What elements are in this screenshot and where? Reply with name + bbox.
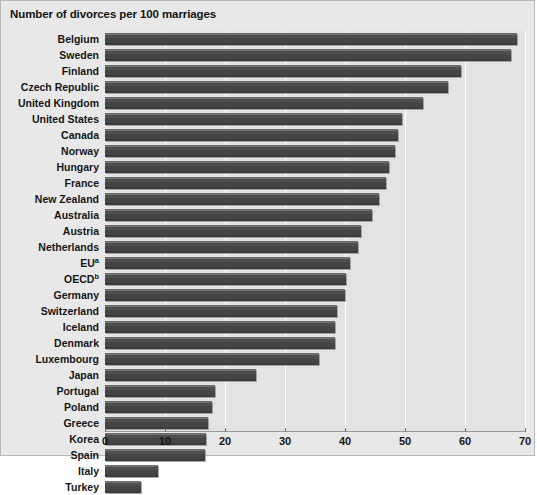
tick-label-10: 10: [159, 435, 171, 447]
category-label-czech-republic: Czech Republic: [1, 79, 99, 95]
category-label-greece: Greece: [1, 415, 99, 431]
category-label-germany: Germany: [1, 287, 99, 303]
bar-row: Canada: [1, 127, 536, 143]
bar-eu: [105, 257, 350, 269]
bar-row: Belgium: [1, 31, 536, 47]
bar-japan: [105, 369, 256, 381]
bar-norway: [105, 145, 395, 157]
category-label-eu: EUa: [1, 255, 99, 271]
bar-row: OECDb: [1, 271, 536, 287]
tick-label-60: 60: [459, 435, 471, 447]
bar-row: Finland: [1, 63, 536, 79]
bar-container: [105, 385, 215, 397]
tick-label-50: 50: [399, 435, 411, 447]
bar-container: [105, 209, 372, 221]
bar-container: [105, 225, 361, 237]
bar-row: Portugal: [1, 383, 536, 399]
category-label-united-kingdom: United Kingdom: [1, 95, 99, 111]
bar-container: [105, 81, 448, 93]
bar-container: [105, 145, 395, 157]
bar-greece: [105, 417, 208, 429]
bar-row: Hungary: [1, 159, 536, 175]
bar-container: [105, 33, 517, 45]
tick-mark-60: [465, 428, 466, 432]
bar-container: [105, 465, 158, 477]
bar-netherlands: [105, 241, 358, 253]
tick-label-0: 0: [102, 435, 108, 447]
category-label-finland: Finland: [1, 63, 99, 79]
bar-france: [105, 177, 386, 189]
bar-row: New Zealand: [1, 191, 536, 207]
bar-czech-republic: [105, 81, 448, 93]
category-label-austria: Austria: [1, 223, 99, 239]
bar-row: France: [1, 175, 536, 191]
bar-container: [105, 193, 379, 205]
tick-mark-20: [225, 428, 226, 432]
tick-label-20: 20: [219, 435, 231, 447]
bar-sweden: [105, 49, 511, 61]
tick-mark-40: [345, 428, 346, 432]
category-label-united-states: United States: [1, 111, 99, 127]
bar-poland: [105, 401, 212, 413]
category-label-spain: Spain: [1, 447, 99, 463]
footnote-marker: b: [94, 272, 99, 281]
bar-container: [105, 65, 461, 77]
tick-mark-70: [525, 428, 526, 432]
category-label-iceland: Iceland: [1, 319, 99, 335]
category-label-australia: Australia: [1, 207, 99, 223]
bar-united-kingdom: [105, 97, 423, 109]
bar-container: [105, 369, 256, 381]
bar-row: Austria: [1, 223, 536, 239]
bar-container: [105, 417, 208, 429]
bar-row: Poland: [1, 399, 536, 415]
bar-austria: [105, 225, 361, 237]
page-title: Number of divorces per 100 marriages: [10, 8, 216, 20]
bar-row: Australia: [1, 207, 536, 223]
bar-row: Iceland: [1, 319, 536, 335]
category-label-hungary: Hungary: [1, 159, 99, 175]
bar-container: [105, 305, 337, 317]
bar-container: [105, 241, 358, 253]
bar-new-zealand: [105, 193, 379, 205]
tick-mark-50: [405, 428, 406, 432]
bar-denmark: [105, 337, 335, 349]
bar-oecd: [105, 273, 346, 285]
bar-canada: [105, 129, 398, 141]
tick-mark-10: [165, 428, 166, 432]
category-label-sweden: Sweden: [1, 47, 99, 63]
bar-container: [105, 289, 345, 301]
bar-container: [105, 481, 141, 493]
bar-container: [105, 49, 511, 61]
category-label-turkey: Turkey: [1, 479, 99, 495]
bar-container: [105, 401, 212, 413]
bar-container: [105, 129, 398, 141]
bar-row: EUa: [1, 255, 536, 271]
bar-iceland: [105, 321, 335, 333]
bar-row: United States: [1, 111, 536, 127]
bar-row: Luxembourg: [1, 351, 536, 367]
bar-finland: [105, 65, 461, 77]
bar-row: Turkey: [1, 479, 536, 495]
bar-container: [105, 161, 389, 173]
tick-label-40: 40: [339, 435, 351, 447]
bar-row: Netherlands: [1, 239, 536, 255]
bar-container: [105, 353, 319, 365]
bar-row: Denmark: [1, 335, 536, 351]
category-label-oecd: OECDb: [1, 271, 99, 287]
bar-container: [105, 177, 386, 189]
tick-label-70: 70: [519, 435, 531, 447]
tick-label-30: 30: [279, 435, 291, 447]
category-label-france: France: [1, 175, 99, 191]
bar-belgium: [105, 33, 517, 45]
tick-mark-30: [285, 428, 286, 432]
bar-container: [105, 337, 335, 349]
bar-container: [105, 273, 346, 285]
bar-row: Germany: [1, 287, 536, 303]
footnote-marker: a: [95, 256, 99, 265]
bar-container: [105, 97, 423, 109]
x-axis: 010203040506070: [105, 431, 525, 457]
category-label-belgium: Belgium: [1, 31, 99, 47]
bar-row: Greece: [1, 415, 536, 431]
bar-united-states: [105, 113, 402, 125]
bar-portugal: [105, 385, 215, 397]
